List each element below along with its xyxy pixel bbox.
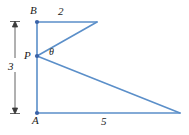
vertex-dot-B bbox=[35, 20, 39, 24]
figure-canvas bbox=[0, 0, 189, 135]
angle-label-theta: θ bbox=[49, 47, 54, 57]
length-label-top: 2 bbox=[58, 6, 64, 17]
point-label-b: B bbox=[30, 5, 37, 16]
segment-lower-diagonal bbox=[37, 56, 180, 113]
point-label-a: A bbox=[32, 115, 39, 126]
segment-upper-diagonal bbox=[37, 22, 97, 56]
vertex-dot-P bbox=[35, 54, 39, 58]
length-label-vertical: 3 bbox=[8, 61, 14, 72]
length-label-bottom: 5 bbox=[101, 116, 107, 127]
figure-lines bbox=[37, 22, 180, 113]
geometry-figure: B P A 2 5 3 θ bbox=[0, 0, 189, 135]
point-label-p: P bbox=[24, 50, 31, 61]
